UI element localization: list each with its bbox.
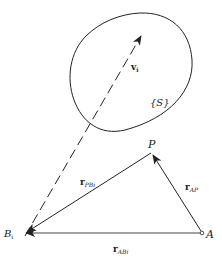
velocity-label: vi — [130, 62, 139, 73]
region-s-boundary — [70, 13, 192, 131]
kinematics-diagram: vi {S} P A Bi rPBi rAP rABi — [0, 0, 222, 264]
point-b-label: Bi — [3, 228, 13, 240]
point-a-marker — [200, 231, 204, 235]
vector-r-ap — [153, 155, 201, 231]
point-a-label: A — [205, 228, 214, 241]
vector-r-pb — [27, 153, 151, 232]
vector-r-ap-label: rAP — [185, 182, 199, 193]
vector-r-pb-label: rPBi — [80, 177, 95, 188]
vector-r-ab-label: rABi — [113, 244, 128, 255]
velocity-vector-line — [25, 36, 141, 236]
region-s-label: {S} — [150, 97, 170, 108]
point-p-label: P — [147, 138, 156, 151]
